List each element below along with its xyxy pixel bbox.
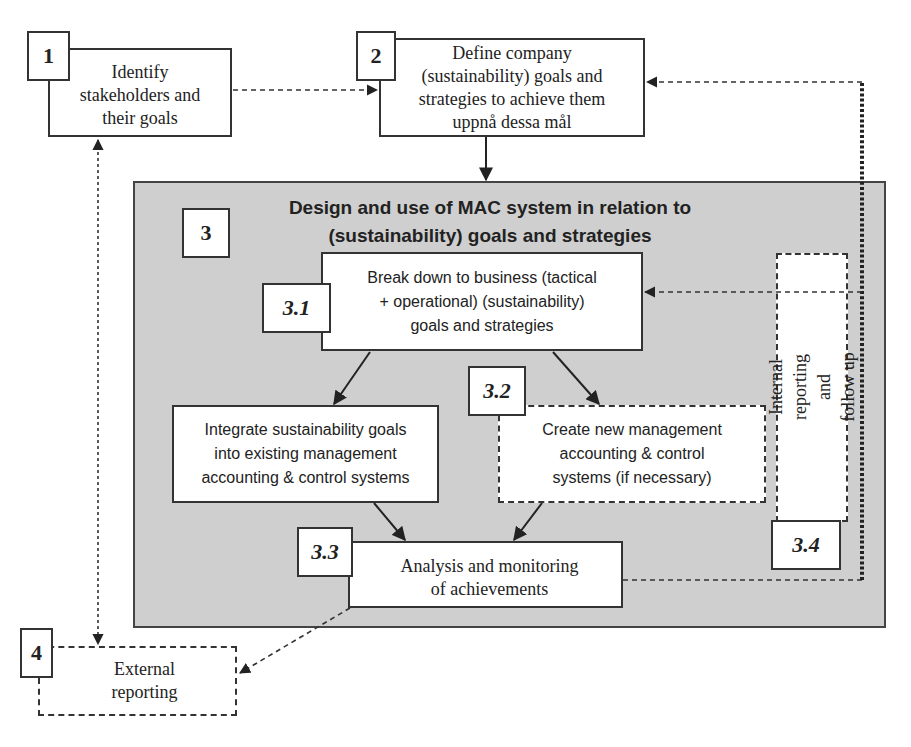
step-2-number: 2 xyxy=(356,31,396,81)
step-3-3-text: Analysis and monitoring of achievements xyxy=(401,555,579,601)
step-3-number: 3 xyxy=(182,208,230,258)
step-1-box: Identify stakeholders and their goals xyxy=(48,48,232,137)
step-4-box: External reporting xyxy=(38,646,237,716)
step-2-text: Define company (sustainability) goals an… xyxy=(419,42,605,134)
step-3-2-integrate-text: Integrate sustainability goals into exis… xyxy=(201,418,409,490)
step-3-3-number: 3.3 xyxy=(297,527,353,577)
step-4-number: 4 xyxy=(20,628,53,678)
step-3-2-create-text: Create new management accounting & contr… xyxy=(542,418,722,490)
step-1-text: Identify stakeholders and their goals xyxy=(80,61,200,130)
step-3-1-box: Break down to business (tactical + opera… xyxy=(321,252,643,351)
step-2-box: Define company (sustainability) goals an… xyxy=(379,38,645,137)
step-3-2-create-box: Create new management accounting & contr… xyxy=(498,405,766,503)
step-3-2-integrate-box: Integrate sustainability goals into exis… xyxy=(172,405,439,503)
step-3-4-number: 3.4 xyxy=(771,520,841,570)
step-1-number: 1 xyxy=(27,31,70,81)
step-3-3-box: Analysis and monitoring of achievements xyxy=(348,541,623,608)
step-3-1-text: Break down to business (tactical + opera… xyxy=(367,266,596,338)
mac-system-group-title: Design and use of MAC system in relation… xyxy=(260,194,720,250)
step-3-1-number: 3.1 xyxy=(262,283,331,333)
mac-sustainability-diagram: Design and use of MAC system in relation… xyxy=(0,0,911,747)
step-4-text: External reporting xyxy=(112,658,178,704)
step-3-4-text: Internal reporting and follow up xyxy=(764,351,860,423)
step-3-4-text-wrap: Internal reporting and follow up xyxy=(776,253,848,521)
step-3-2-number: 3.2 xyxy=(468,366,526,416)
